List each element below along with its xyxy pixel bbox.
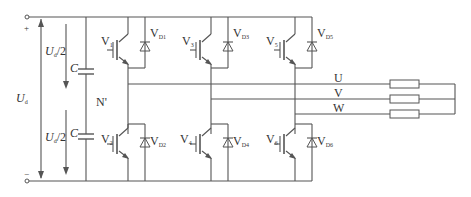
switch-v3-label: V3 bbox=[182, 35, 194, 48]
diode-vd5-label: VD5 bbox=[317, 27, 333, 40]
dc-voltage-label: Ud bbox=[16, 92, 28, 105]
diode-vd2-label: VD2 bbox=[150, 135, 166, 148]
switch-v6-label: V6 bbox=[266, 133, 278, 146]
phase-u-label: U bbox=[334, 72, 343, 84]
minus-terminal-label: − bbox=[24, 170, 29, 179]
capacitor-top-label: C bbox=[70, 62, 78, 74]
half-voltage-bottom-label: Ud/2 bbox=[45, 131, 66, 144]
diode-vd4-label: VD4 bbox=[233, 135, 249, 148]
diode-vd3-label: VD3 bbox=[233, 27, 249, 40]
diode-vd6-label: VD6 bbox=[317, 135, 333, 148]
phase-v-label: V bbox=[334, 87, 343, 99]
half-voltage-top-label: Ud/2 bbox=[45, 45, 66, 58]
plus-terminal-label: + bbox=[24, 24, 29, 33]
switch-v5-label: V5 bbox=[266, 35, 278, 48]
switch-v2-label: V2 bbox=[101, 133, 113, 146]
switch-v1-label: V1 bbox=[101, 35, 113, 48]
switch-v4-label: V4 bbox=[180, 133, 192, 146]
phase-w-label: W bbox=[333, 102, 344, 114]
diode-vd1-label: VD1 bbox=[150, 27, 166, 40]
neutral-point-label: N' bbox=[96, 96, 107, 108]
capacitor-bottom-label: C bbox=[70, 127, 78, 139]
